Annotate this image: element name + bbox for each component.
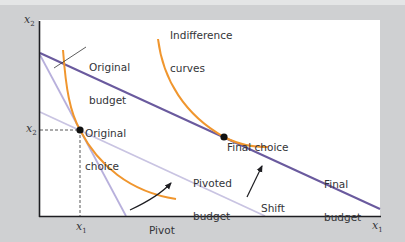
pivot-label: Pivot — [149, 203, 175, 242]
original-choice-point — [76, 126, 83, 133]
x-tick-sub: 1 — [82, 227, 86, 235]
pivot-label-text: Pivot — [149, 225, 175, 236]
final-choice-label-text: Final choice — [227, 142, 289, 153]
indifference-curves-label: Indifference curves — [170, 8, 232, 85]
shift-label-text: Shift — [261, 203, 285, 214]
final-budget-label: Final budget — [324, 157, 361, 234]
original-choice-label-line2: choice — [85, 161, 126, 172]
original-budget-leader — [54, 47, 86, 68]
y-tick-label: x2 — [26, 122, 37, 137]
final-choice-label: Final choice — [227, 120, 289, 164]
pivoted-budget-label-line2: budget — [193, 211, 232, 222]
indifference-curves-label-line1: Indifference — [170, 30, 232, 41]
shift-arrow-icon — [247, 166, 262, 197]
original-choice-label-line1: Original — [85, 128, 126, 139]
indifference-curves-label-line2: curves — [170, 63, 232, 74]
pivoted-budget-label: Pivoted budget — [193, 156, 232, 233]
original-choice-label: Original choice — [85, 106, 126, 183]
final-budget-label-line2: budget — [324, 212, 361, 223]
y-axis-label: x2 — [24, 13, 35, 28]
final-budget-label-line1: Final — [324, 179, 361, 190]
y-tick-sub: 2 — [32, 129, 36, 137]
shift-label: Shift — [261, 181, 285, 225]
x-tick-label: x1 — [76, 220, 87, 235]
pivoted-budget-label-line1: Pivoted — [193, 178, 232, 189]
y-axis-label-sub: 2 — [30, 20, 34, 28]
x-axis-label-sub: 1 — [378, 226, 382, 234]
original-budget-label-line1: Original — [89, 62, 130, 73]
x-axis-label: x1 — [372, 219, 383, 234]
original-budget-label-line2: budget — [89, 95, 130, 106]
